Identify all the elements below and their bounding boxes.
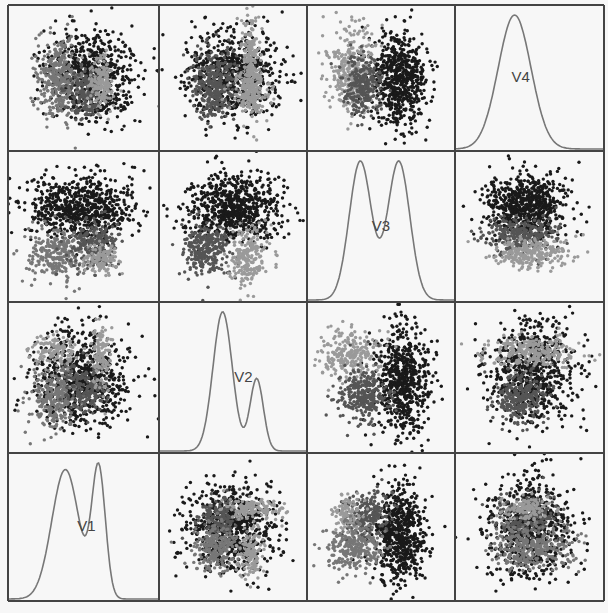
variable-label: V3	[372, 217, 390, 234]
variable-label: V1	[77, 517, 95, 534]
scatterplot-matrix: V4V3V2V1	[0, 0, 608, 613]
variable-label: V2	[234, 368, 252, 385]
variable-label: V4	[511, 68, 529, 85]
